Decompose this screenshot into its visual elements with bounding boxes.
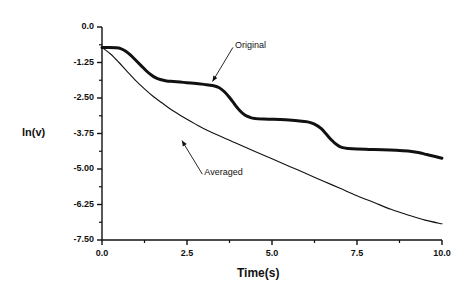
series-group [102, 47, 442, 223]
series-line-averaged [102, 47, 442, 223]
annotation-arrowhead-original [213, 76, 218, 82]
y-tick-label-5: -6.25 [44, 199, 94, 209]
x-axis-title: Time(s) [237, 266, 279, 280]
annotation-leader-averaged [182, 141, 202, 175]
series-line-original [102, 47, 442, 158]
y-tick-label-4: -5.00 [44, 163, 94, 173]
annotation-leader-original [213, 47, 233, 81]
x-tick-label-1: 2.5 [167, 248, 207, 258]
annotation-label-original: Original [235, 40, 266, 50]
x-tick-label-4: 10.0 [422, 248, 462, 258]
y-tick-label-0: 0.0 [44, 21, 94, 31]
annotation-group [182, 47, 233, 174]
x-tick-label-3: 7.5 [337, 248, 377, 258]
y-tick-label-3: -3.75 [44, 128, 94, 138]
y-tick-label-1: -1.25 [44, 57, 94, 67]
y-axis-title: ln(v) [22, 126, 45, 138]
x-tick-label-0: 0.0 [82, 248, 122, 258]
y-tick-label-2: -2.50 [44, 92, 94, 102]
annotation-arrowhead-averaged [182, 141, 187, 147]
axes-group [97, 27, 442, 245]
y-tick-label-6: -7.50 [44, 234, 94, 244]
chart-figure: ln(v) Time(s) 0.0-1.25-2.50-3.75-5.00-6.… [0, 0, 472, 284]
annotation-label-averaged: Averaged [204, 167, 242, 177]
x-tick-label-2: 5.0 [252, 248, 292, 258]
